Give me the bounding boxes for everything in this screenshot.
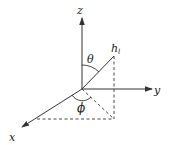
vector-label-sub: l [118,48,120,56]
phi-label: ϕ [77,101,85,115]
diagram-svg: z y x hl θ ϕ [0,0,170,145]
projection-xy-dashed [82,89,114,119]
coordinate-diagram: z y x hl θ ϕ [0,0,170,145]
vector-label-main: h [111,42,118,55]
y-axis-label: y [153,84,161,97]
x-axis [22,89,82,127]
vector-label: hl [111,42,120,56]
phi-arc [72,95,91,101]
z-axis-label: z [76,4,83,17]
theta-arc [82,65,99,72]
x-axis-label: x [9,131,16,144]
theta-label: θ [87,53,94,66]
